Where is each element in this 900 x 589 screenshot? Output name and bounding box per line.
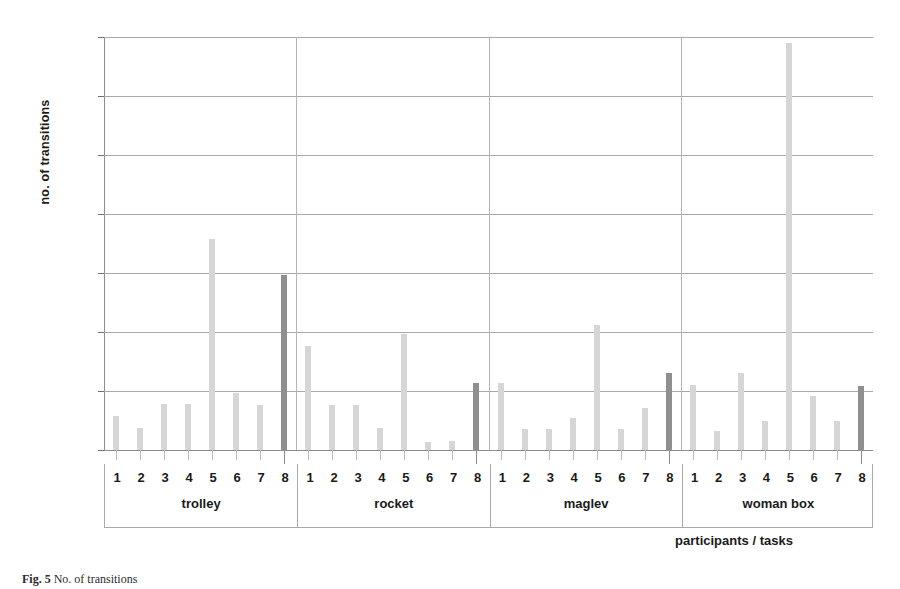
bar-woman-box-1 bbox=[690, 385, 696, 450]
bar-woman-box-4 bbox=[762, 421, 768, 451]
cat-tick-trolley-6 bbox=[236, 450, 237, 460]
cat-tick-maglev-3 bbox=[549, 450, 550, 460]
bar-rocket-4 bbox=[377, 428, 383, 450]
x-tick-label-5: 5 bbox=[201, 468, 225, 490]
x-tick-label-8: 8 bbox=[466, 468, 490, 490]
bar-rocket-8 bbox=[473, 383, 479, 450]
cat-tick-woman-box-7 bbox=[837, 450, 838, 460]
bar-trolley-2 bbox=[137, 428, 143, 450]
cat-tick-woman-box-6 bbox=[813, 450, 814, 460]
plot-area bbox=[104, 37, 873, 450]
cat-tick-rocket-6 bbox=[428, 450, 429, 460]
x-tick-label-7: 7 bbox=[249, 468, 273, 490]
y-tick-mark-15 bbox=[98, 273, 104, 274]
x-tick-label-2: 2 bbox=[514, 468, 538, 490]
y-tick-mark-35 bbox=[98, 37, 104, 38]
bar-rocket-3 bbox=[353, 405, 359, 450]
group-label-block-trolley: 12345678trolley bbox=[105, 464, 297, 527]
group-separator-maglev bbox=[489, 37, 490, 450]
bar-maglev-8 bbox=[666, 373, 672, 450]
bar-trolley-3 bbox=[161, 404, 167, 450]
x-tick-label-6: 6 bbox=[418, 468, 442, 490]
cat-tick-woman-box-1 bbox=[693, 450, 694, 460]
cat-tick-maglev-1 bbox=[501, 450, 502, 460]
group-separator-woman-box bbox=[681, 37, 682, 450]
cat-tick-maglev-4 bbox=[573, 450, 574, 460]
x-tick-label-2: 2 bbox=[707, 468, 731, 490]
x-tick-label-2: 2 bbox=[322, 468, 346, 490]
bar-rocket-1 bbox=[305, 346, 311, 450]
bar-woman-box-5 bbox=[786, 43, 792, 450]
bar-woman-box-3 bbox=[738, 373, 744, 450]
x-tick-label-8: 8 bbox=[850, 468, 874, 490]
cat-tick-woman-box-3 bbox=[741, 450, 742, 460]
cat-tick-trolley-8 bbox=[284, 450, 285, 464]
y-tick-mark-5 bbox=[98, 391, 104, 392]
group-name-trolley: trolley bbox=[105, 496, 297, 511]
tick-number-row: 12345678 bbox=[298, 468, 489, 490]
bar-trolley-6 bbox=[233, 393, 239, 450]
cat-tick-trolley-2 bbox=[140, 450, 141, 460]
x-tick-label-4: 4 bbox=[177, 468, 201, 490]
x-tick-label-7: 7 bbox=[634, 468, 658, 490]
x-tick-label-8: 8 bbox=[658, 468, 682, 490]
cat-tick-maglev-6 bbox=[621, 450, 622, 460]
group-separator-rocket bbox=[296, 37, 297, 450]
tick-number-row: 12345678 bbox=[491, 468, 682, 490]
cat-tick-trolley-4 bbox=[188, 450, 189, 460]
y-tick-mark-20 bbox=[98, 214, 104, 215]
cat-tick-rocket-8 bbox=[476, 450, 477, 464]
category-axis-ticks bbox=[104, 450, 873, 464]
x-tick-label-5: 5 bbox=[586, 468, 610, 490]
cat-tick-trolley-7 bbox=[260, 450, 261, 460]
cat-tick-woman-box-5 bbox=[789, 450, 790, 460]
bar-maglev-4 bbox=[570, 418, 576, 450]
cat-tick-maglev-8 bbox=[669, 450, 670, 464]
y-tick-mark-25 bbox=[98, 155, 104, 156]
cat-tick-woman-box-4 bbox=[765, 450, 766, 460]
x-tick-label-3: 3 bbox=[538, 468, 562, 490]
x-tick-label-2: 2 bbox=[129, 468, 153, 490]
cat-tick-woman-box-8 bbox=[861, 450, 862, 464]
bar-maglev-1 bbox=[498, 383, 504, 450]
bar-woman-box-2 bbox=[714, 431, 720, 450]
x-tick-label-3: 3 bbox=[346, 468, 370, 490]
x-tick-label-4: 4 bbox=[562, 468, 586, 490]
x-tick-label-8: 8 bbox=[273, 468, 297, 490]
bar-maglev-3 bbox=[546, 429, 552, 450]
cat-tick-trolley-3 bbox=[164, 450, 165, 460]
group-name-woman-box: woman box bbox=[683, 496, 874, 511]
cat-tick-rocket-7 bbox=[452, 450, 453, 460]
x-tick-label-5: 5 bbox=[394, 468, 418, 490]
caption-text: No. of transitions bbox=[54, 572, 138, 586]
cat-tick-trolley-1 bbox=[116, 450, 117, 460]
bar-rocket-7 bbox=[449, 441, 455, 450]
bar-trolley-7 bbox=[257, 405, 263, 450]
group-label-block-maglev: 12345678maglev bbox=[490, 464, 682, 527]
x-tick-label-4: 4 bbox=[370, 468, 394, 490]
cat-tick-maglev-7 bbox=[645, 450, 646, 460]
group-label-block-rocket: 12345678rocket bbox=[297, 464, 489, 527]
x-tick-label-1: 1 bbox=[491, 468, 515, 490]
x-tick-label-5: 5 bbox=[778, 468, 802, 490]
group-name-maglev: maglev bbox=[491, 496, 682, 511]
x-axis-title: participants / tasks bbox=[604, 533, 864, 548]
cat-tick-rocket-5 bbox=[404, 450, 405, 460]
x-tick-label-6: 6 bbox=[802, 468, 826, 490]
x-tick-label-7: 7 bbox=[826, 468, 850, 490]
bar-trolley-4 bbox=[185, 404, 191, 450]
cat-tick-woman-box-2 bbox=[717, 450, 718, 460]
caption-prefix: Fig. 5 bbox=[22, 572, 51, 586]
x-tick-label-3: 3 bbox=[153, 468, 177, 490]
figure-caption: Fig. 5 No. of transitions bbox=[22, 572, 522, 587]
bar-rocket-6 bbox=[425, 442, 431, 450]
x-tick-label-7: 7 bbox=[442, 468, 466, 490]
cat-tick-rocket-3 bbox=[356, 450, 357, 460]
bar-woman-box-6 bbox=[810, 396, 816, 450]
cat-tick-maglev-2 bbox=[525, 450, 526, 460]
tick-number-row: 12345678 bbox=[105, 468, 297, 490]
x-tick-label-1: 1 bbox=[105, 468, 129, 490]
bar-woman-box-7 bbox=[834, 421, 840, 451]
cat-tick-rocket-1 bbox=[308, 450, 309, 460]
group-label-block-woman-box: 12345678woman box bbox=[682, 464, 874, 527]
